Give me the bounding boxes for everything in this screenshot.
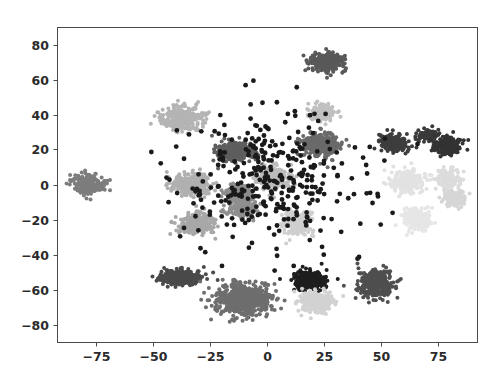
y-tick-label: 40 <box>32 108 50 123</box>
x-tick-label: −25 <box>197 349 225 364</box>
y-tick-label: −40 <box>21 248 49 263</box>
y-tick-label: 80 <box>32 38 50 53</box>
x-tick-label: 0 <box>263 349 272 364</box>
x-tick-label: −50 <box>140 349 168 364</box>
x-tick-label: 50 <box>373 349 391 364</box>
y-tick-label: 60 <box>32 73 50 88</box>
tsne-scatter-figure: −75−50−250255075806040200−20−40−60−80 <box>0 0 498 387</box>
scatter-plot-canvas[interactable]: −75−50−250255075806040200−20−40−60−80 <box>0 0 498 387</box>
y-tick-label: −60 <box>21 283 49 298</box>
y-tick-label: −20 <box>21 213 49 228</box>
x-tick-label: 75 <box>430 349 447 364</box>
y-tick-label: −80 <box>21 318 49 333</box>
x-tick-label: −75 <box>83 349 111 364</box>
y-tick-label: 20 <box>32 142 50 157</box>
x-tick-label: 25 <box>316 349 333 364</box>
y-tick-label: 0 <box>40 178 49 193</box>
